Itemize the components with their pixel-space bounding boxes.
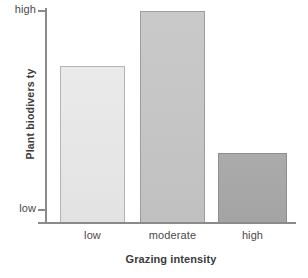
bar-low [60, 66, 125, 223]
y-axis-tick-label-low: low [0, 202, 36, 214]
y-axis-tick-low [38, 209, 46, 211]
y-axis-tick-label-high: high [0, 3, 36, 15]
bar-moderate [140, 11, 205, 223]
x-axis-tick-label-high: high [218, 229, 287, 241]
y-axis-title: Plant biodivers ty [24, 44, 36, 184]
y-axis-tick-high [38, 10, 46, 12]
bar-chart: high low Plant biodivers ty low moderate… [0, 0, 308, 278]
x-axis-line [38, 222, 296, 224]
x-axis-title: Grazing intensity [46, 253, 296, 265]
x-axis-tick-label-moderate: moderate [140, 229, 205, 241]
bar-high [218, 153, 287, 223]
y-axis-line [45, 8, 47, 224]
x-axis-tick-label-low: low [60, 229, 125, 241]
